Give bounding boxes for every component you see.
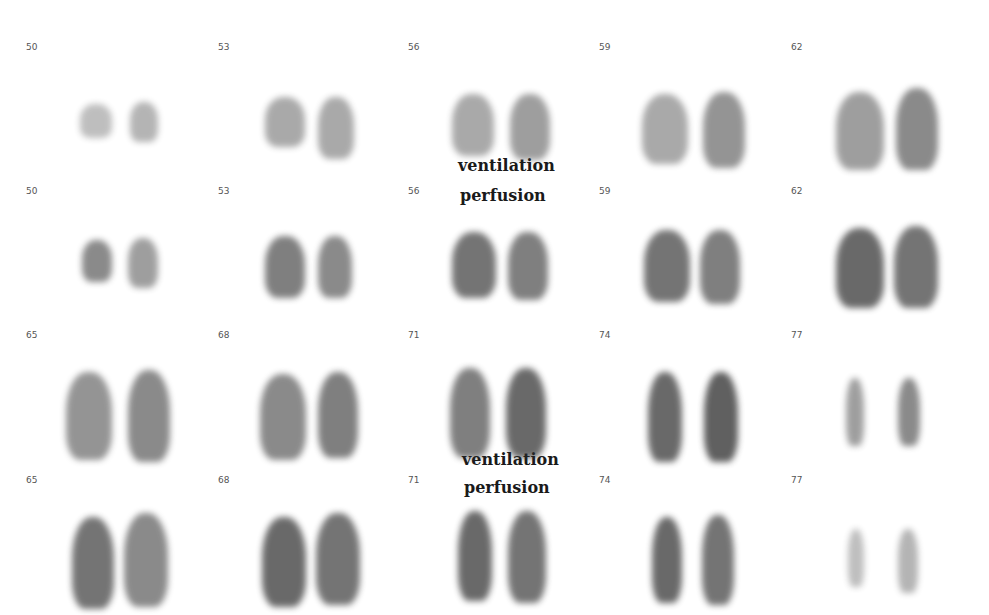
- slice-panel-ventilation-65: 65: [26, 330, 216, 470]
- slice-panel-perfusion-56: 56: [408, 186, 598, 326]
- slice-number-label: 68: [218, 475, 229, 485]
- slice-panel-perfusion-74: 74: [599, 475, 789, 615]
- slice-number-label: 74: [599, 330, 610, 340]
- slice-panel-ventilation-68: 68: [218, 330, 408, 470]
- left-lung-uptake: [508, 232, 548, 300]
- slice-panel-ventilation-53: 53: [218, 42, 408, 182]
- right-lung-uptake: [836, 92, 884, 170]
- slice-panel-ventilation-59: 59: [599, 42, 789, 182]
- slice-panel-perfusion-77: 77: [791, 475, 981, 615]
- slice-number-label: 71: [408, 475, 419, 485]
- left-lung-uptake: [700, 230, 740, 304]
- right-lung-uptake: [452, 232, 496, 298]
- right-lung-uptake: [644, 230, 690, 302]
- left-lung-uptake: [510, 94, 550, 160]
- right-lung-uptake: [66, 372, 112, 460]
- left-lung-uptake: [318, 236, 352, 298]
- right-lung-uptake: [265, 236, 305, 298]
- left-lung-uptake: [703, 92, 745, 168]
- slice-panel-ventilation-62: 62: [791, 42, 981, 182]
- slice-number-label: 68: [218, 330, 229, 340]
- left-lung-uptake: [128, 238, 158, 288]
- slice-number-label: 65: [26, 330, 37, 340]
- slice-panel-perfusion-62: 62: [791, 186, 981, 326]
- slice-number-label: 62: [791, 42, 802, 52]
- left-lung-uptake: [508, 511, 546, 603]
- right-lung-uptake: [80, 104, 112, 138]
- right-lung-uptake: [458, 511, 492, 601]
- left-lung-uptake: [128, 370, 170, 462]
- left-lung-uptake: [898, 378, 920, 446]
- slice-panel-perfusion-50: 50: [26, 186, 216, 326]
- right-lung-uptake: [848, 529, 864, 587]
- left-lung-uptake: [130, 102, 158, 142]
- left-lung-uptake: [896, 88, 938, 170]
- slice-number-label: 50: [26, 186, 37, 196]
- left-lung-uptake: [316, 513, 360, 605]
- right-lung-uptake: [846, 378, 864, 446]
- left-lung-uptake: [702, 515, 734, 605]
- slice-number-label: 65: [26, 475, 37, 485]
- left-lung-uptake: [894, 226, 938, 308]
- right-lung-uptake: [72, 517, 114, 609]
- slice-number-label: 74: [599, 475, 610, 485]
- slice-panel-ventilation-71: 71: [408, 330, 598, 470]
- right-lung-uptake: [648, 372, 682, 462]
- left-lung-uptake: [124, 513, 168, 607]
- slice-number-label: 77: [791, 330, 802, 340]
- right-lung-uptake: [265, 97, 305, 147]
- slice-panel-perfusion-53: 53: [218, 186, 408, 326]
- right-lung-uptake: [262, 517, 306, 607]
- right-lung-uptake: [836, 228, 884, 308]
- slice-panel-perfusion-65: 65: [26, 475, 216, 615]
- slice-number-label: 56: [408, 186, 419, 196]
- right-lung-uptake: [452, 94, 494, 156]
- left-lung-uptake: [318, 97, 354, 159]
- right-lung-uptake: [642, 94, 688, 164]
- slice-number-label: 53: [218, 186, 229, 196]
- right-lung-uptake: [450, 368, 490, 458]
- left-lung-uptake: [506, 368, 546, 458]
- left-lung-uptake: [704, 372, 738, 462]
- slice-number-label: 62: [791, 186, 802, 196]
- right-lung-uptake: [652, 517, 682, 603]
- slice-number-label: 59: [599, 42, 610, 52]
- slice-number-label: 77: [791, 475, 802, 485]
- right-lung-uptake: [260, 374, 306, 460]
- slice-panel-ventilation-77: 77: [791, 330, 981, 470]
- caption-perfusion-bottom: perfusion: [464, 478, 550, 497]
- slice-panel-perfusion-59: 59: [599, 186, 789, 326]
- slice-number-label: 56: [408, 42, 419, 52]
- slice-panel-ventilation-74: 74: [599, 330, 789, 470]
- slice-panel-perfusion-68: 68: [218, 475, 408, 615]
- caption-perfusion-top: perfusion: [460, 186, 546, 205]
- slice-panel-ventilation-50: 50: [26, 42, 216, 182]
- slice-number-label: 53: [218, 42, 229, 52]
- slice-number-label: 50: [26, 42, 37, 52]
- right-lung-uptake: [82, 240, 112, 282]
- left-lung-uptake: [898, 529, 918, 593]
- slice-number-label: 59: [599, 186, 610, 196]
- slice-number-label: 71: [408, 330, 419, 340]
- left-lung-uptake: [318, 372, 358, 458]
